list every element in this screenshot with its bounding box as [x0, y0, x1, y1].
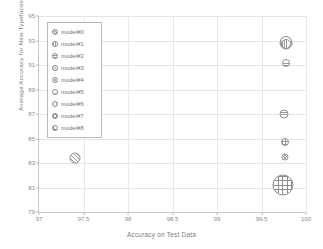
x-tick-mark	[128, 212, 129, 215]
legend-item-label: model#2	[61, 53, 84, 59]
y-tick-mark	[36, 16, 39, 17]
legend-item[interactable]: model#2	[51, 50, 98, 62]
data-point[interactable]	[281, 138, 289, 146]
x-axis-title: Accuracy on Test Data	[0, 231, 323, 238]
legend-item[interactable]: model#4	[51, 74, 98, 86]
x-tick-label: 97	[36, 216, 43, 222]
legend-marker-icon	[52, 77, 58, 83]
x-tick-mark	[261, 212, 262, 215]
gridline-vertical	[217, 16, 218, 212]
x-tick-label: 99.5	[256, 216, 268, 222]
chart-legend[interactable]: model#0model#1model#2model#3model#4model…	[47, 22, 102, 138]
legend-item[interactable]: model#0	[51, 26, 98, 38]
x-tick-mark	[306, 212, 307, 215]
legend-marker-icon	[52, 125, 58, 131]
legend-item[interactable]: model#7	[51, 110, 98, 122]
y-tick-label: 95	[28, 13, 35, 19]
legend-marker-icon	[52, 65, 58, 71]
y-axis-title: Average Accuracy for New Typefaces	[17, 0, 24, 136]
gridline-vertical	[306, 16, 307, 212]
legend-item-label: model#6	[61, 101, 84, 107]
x-tick-mark	[217, 212, 218, 215]
y-tick-label: 89	[28, 87, 35, 93]
legend-item-label: model#0	[61, 29, 84, 35]
x-tick-mark	[39, 212, 40, 215]
data-point[interactable]	[272, 175, 293, 196]
legend-marker-icon	[52, 101, 58, 107]
data-point[interactable]	[281, 154, 288, 161]
data-point[interactable]	[282, 59, 290, 67]
x-tick-mark	[83, 212, 84, 215]
x-tick-label: 98	[125, 216, 132, 222]
legend-marker-icon	[52, 29, 58, 35]
legend-item-label: model#1	[61, 41, 84, 47]
legend-item-label: model#8	[61, 125, 84, 131]
y-tick-label: 83	[28, 160, 35, 166]
y-tick-mark	[36, 138, 39, 139]
gridline-vertical	[262, 16, 263, 212]
legend-item[interactable]: model#5	[51, 86, 98, 98]
legend-marker-icon	[52, 113, 58, 119]
legend-marker-icon	[52, 89, 58, 95]
y-tick-mark	[36, 163, 39, 164]
y-tick-label: 79	[28, 209, 35, 215]
legend-item-label: model#3	[61, 65, 84, 71]
scatter-chart: Average Accuracy for New Typefaces Accur…	[0, 0, 323, 249]
x-tick-label: 97.5	[78, 216, 90, 222]
data-point[interactable]	[69, 153, 80, 164]
data-point[interactable]	[281, 39, 291, 49]
legend-marker-icon	[52, 53, 58, 59]
legend-item[interactable]: model#6	[51, 98, 98, 110]
legend-item-label: model#4	[61, 77, 84, 83]
x-tick-mark	[172, 212, 173, 215]
y-tick-label: 91	[28, 62, 35, 68]
y-tick-label: 93	[28, 38, 35, 44]
legend-item[interactable]: model#3	[51, 62, 98, 74]
y-tick-mark	[36, 187, 39, 188]
y-tick-label: 87	[28, 111, 35, 117]
y-tick-mark	[36, 40, 39, 41]
y-tick-mark	[36, 65, 39, 66]
data-point[interactable]	[279, 110, 288, 119]
x-tick-label: 98.5	[167, 216, 179, 222]
y-tick-label: 85	[28, 136, 35, 142]
y-tick-mark	[36, 114, 39, 115]
legend-item-label: model#7	[61, 113, 84, 119]
legend-item-label: model#5	[61, 89, 84, 95]
gridline-vertical	[128, 16, 129, 212]
gridline-vertical	[173, 16, 174, 212]
legend-item[interactable]: model#8	[51, 122, 98, 134]
x-tick-label: 100	[301, 216, 311, 222]
x-tick-label: 99	[214, 216, 221, 222]
y-tick-mark	[36, 89, 39, 90]
legend-marker-icon	[52, 41, 58, 47]
legend-item[interactable]: model#1	[51, 38, 98, 50]
y-tick-label: 81	[28, 185, 35, 191]
